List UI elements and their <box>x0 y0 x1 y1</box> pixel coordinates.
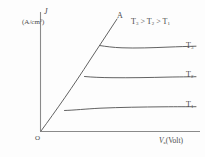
x-axis-unit: (Volt) <box>166 136 183 145</box>
relation-t2-sub: 2 <box>152 21 154 26</box>
curve-label-t3-sub: 3 <box>191 45 193 50</box>
jv-characteristic-figure: J (A/cm2) Va(Volt) O A T3 > T2 > T1 T3 T… <box>0 0 205 157</box>
curve-label-t2: T2 <box>186 71 193 79</box>
curve-label-t1: T1 <box>186 101 193 109</box>
curve-label-t3: T3 <box>186 42 193 50</box>
relation-gt-2: > <box>154 17 162 26</box>
x-axis-label: Va(Volt) <box>159 137 183 145</box>
y-unit-close: ) <box>42 18 44 26</box>
origin-label: O <box>35 135 40 142</box>
curve-oa-space-charge <box>41 19 117 131</box>
x-axis-subscript: a <box>164 140 166 145</box>
y-axis-unit-label: (A/cm2) <box>22 19 44 26</box>
y-axis-symbol: J <box>44 8 48 16</box>
relation-t1-sub: 1 <box>167 21 169 26</box>
curve-label-t2-sub: 2 <box>191 74 193 79</box>
temperature-relation-annotation: T3 > T2 > T1 <box>131 18 170 26</box>
relation-gt-1: > <box>138 17 146 26</box>
point-a-label: A <box>117 12 123 20</box>
curve-t3-saturation <box>100 46 197 49</box>
curve-label-t1-sub: 1 <box>191 104 193 109</box>
y-unit-exponent: 2 <box>40 18 42 23</box>
axes-group <box>40 12 200 132</box>
curve-t2-saturation <box>85 77 197 78</box>
relation-t2: T <box>147 17 152 26</box>
curves-group <box>41 19 196 131</box>
x-axis-symbol: V <box>159 136 164 145</box>
y-unit-open: (A/cm <box>22 18 40 26</box>
curve-t1-saturation <box>65 107 197 111</box>
